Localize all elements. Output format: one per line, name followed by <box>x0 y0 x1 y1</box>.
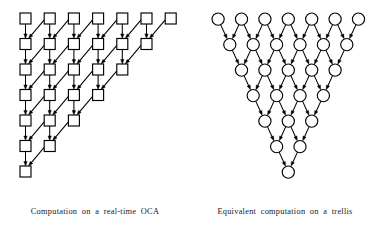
edge-trellis <box>291 25 297 39</box>
trellis-node <box>282 115 294 127</box>
oca-cell-node <box>68 13 79 24</box>
oca-cell-node <box>141 13 152 24</box>
trellis-node <box>282 64 294 76</box>
trellis-node <box>329 13 341 25</box>
oca-cell-node <box>20 141 31 152</box>
edge-vertical <box>145 24 148 39</box>
oca-cell-node <box>117 39 128 50</box>
edge-trellis <box>244 25 250 39</box>
trellis-node <box>294 90 306 102</box>
figure-root: Computation on a real-time OCA Equivalen… <box>0 0 380 229</box>
oca-cell-node <box>117 13 128 24</box>
edge-trellis <box>338 25 344 39</box>
trellis-node <box>306 13 318 25</box>
oca-cell-node <box>165 13 176 24</box>
oca-cell-node <box>44 13 55 24</box>
edge-vertical <box>48 50 51 65</box>
edge-vertical <box>96 24 99 39</box>
trellis-caption: Equivalent computation on a trellis <box>190 206 380 217</box>
edge-trellis <box>256 76 262 90</box>
edge-vertical <box>96 75 99 90</box>
edge-vertical <box>24 101 27 116</box>
edge-trellis <box>349 25 355 39</box>
edge-trellis <box>232 25 238 39</box>
edge-vertical <box>121 50 124 65</box>
trellis-node <box>224 39 236 51</box>
panel-trellis: Equivalent computation on a trellis <box>190 0 380 229</box>
trellis-node <box>306 64 318 76</box>
oca-cell-node <box>68 39 79 50</box>
trellis-node <box>259 115 271 127</box>
edge-trellis <box>303 76 309 90</box>
edge-trellis <box>279 25 285 39</box>
edge-trellis <box>314 76 320 90</box>
oca-cell-node <box>20 115 31 126</box>
trellis-node <box>247 90 259 102</box>
trellis-node <box>212 13 224 25</box>
trellis-node <box>235 64 247 76</box>
oca-cell-node <box>44 39 55 50</box>
oca-cell-node <box>141 39 152 50</box>
edge-trellis <box>303 25 309 39</box>
edge-vertical <box>24 152 27 167</box>
oca-cell-node <box>44 64 55 75</box>
trellis-diagram <box>190 0 380 200</box>
edge-trellis <box>326 50 332 64</box>
edge-trellis <box>303 127 309 141</box>
oca-cell-node <box>68 90 79 101</box>
oca-cell-node <box>20 90 31 101</box>
oca-cell-node <box>93 13 104 24</box>
edge-trellis <box>279 50 285 64</box>
trellis-node <box>317 39 329 51</box>
oca-cell-node <box>68 115 79 126</box>
edge-trellis <box>267 127 273 141</box>
trellis-node <box>317 90 329 102</box>
edge-trellis <box>314 50 320 64</box>
oca-cell-node <box>20 64 31 75</box>
edge-trellis <box>232 50 238 64</box>
trellis-node <box>271 90 283 102</box>
edge-vertical <box>24 75 27 90</box>
trellis-node <box>247 39 259 51</box>
edge-trellis <box>267 76 273 90</box>
edge-trellis <box>279 152 285 166</box>
edge-vertical <box>24 50 27 65</box>
edge-trellis <box>326 76 332 90</box>
edge-trellis <box>291 127 297 141</box>
oca-cell-node <box>44 90 55 101</box>
edge-trellis <box>244 50 250 64</box>
edge-trellis <box>268 101 274 115</box>
edge-trellis <box>268 50 274 64</box>
trellis-node <box>329 64 341 76</box>
edge-trellis <box>314 101 320 115</box>
trellis-node <box>235 13 247 25</box>
trellis-node <box>282 166 294 178</box>
edge-vertical <box>72 50 75 65</box>
edge-trellis <box>291 76 297 90</box>
edge-trellis <box>291 50 297 64</box>
edge-trellis <box>291 101 297 115</box>
trellis-node <box>352 13 364 25</box>
edge-trellis <box>267 25 273 39</box>
oca-cell-node <box>20 166 31 177</box>
oca-cell-node <box>20 39 31 50</box>
edge-vertical <box>24 126 27 141</box>
edge-trellis <box>244 76 250 90</box>
edge-vertical <box>72 24 75 39</box>
edge-vertical <box>48 75 51 90</box>
oca-cell-node <box>20 13 31 24</box>
edge-trellis <box>338 50 344 64</box>
edge-vertical <box>121 24 124 39</box>
edge-trellis <box>303 50 309 64</box>
edge-vertical <box>24 24 27 39</box>
trellis-node <box>341 39 353 51</box>
edge-trellis <box>279 76 285 90</box>
edge-trellis <box>256 50 262 64</box>
trellis-node <box>306 115 318 127</box>
edge-trellis <box>291 152 297 166</box>
trellis-node <box>259 13 271 25</box>
edge-trellis <box>221 25 227 39</box>
edge-vertical <box>72 75 75 90</box>
oca-cell-node <box>44 141 55 152</box>
edge-trellis <box>256 25 262 39</box>
